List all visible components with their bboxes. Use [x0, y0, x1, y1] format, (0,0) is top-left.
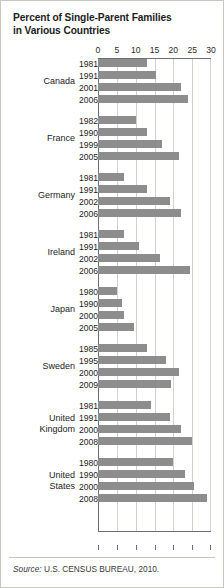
- bar-track: [98, 196, 211, 207]
- bar: [98, 254, 160, 262]
- year-label: 1995: [79, 356, 98, 366]
- year-label: 1990: [79, 128, 98, 138]
- bar-group: Japan1980199020002005: [9, 286, 211, 333]
- group-label: Ireland: [9, 247, 79, 258]
- year-label: 2006: [79, 95, 98, 105]
- bar-track: [98, 229, 211, 240]
- bar-track: [98, 286, 211, 297]
- bar-row: 2001: [79, 82, 211, 93]
- bar-row: 1999: [79, 139, 211, 150]
- bar-row: 1990: [79, 469, 211, 480]
- bar-group: Ireland1981199120022006: [9, 229, 211, 276]
- year-label: 2005: [79, 152, 98, 162]
- group-label: UnitedStates: [9, 470, 79, 491]
- bar: [98, 323, 134, 331]
- bar: [98, 152, 179, 160]
- group-rows: 1980199020002005: [79, 286, 211, 333]
- group-label: UnitedKingdom: [9, 413, 79, 434]
- bar: [98, 116, 136, 124]
- bar-group: France1982199019992005: [9, 115, 211, 162]
- bar-row: 2009: [79, 379, 211, 390]
- year-label: 1980: [79, 287, 98, 297]
- bar-track: [98, 241, 211, 252]
- year-label: 1991: [79, 413, 98, 423]
- bar-row: 1981: [79, 172, 211, 183]
- bar-row: 2005: [79, 322, 211, 333]
- bar: [98, 59, 147, 67]
- year-label: 1985: [79, 344, 98, 354]
- x-tickmark: [117, 545, 118, 550]
- bar: [98, 128, 147, 136]
- bar-row: 1995: [79, 355, 211, 366]
- bar: [98, 344, 147, 352]
- x-tickmark: [155, 545, 156, 550]
- x-tick-label: 15: [150, 45, 160, 55]
- x-tick-label: 0: [96, 45, 101, 55]
- bar: [98, 266, 190, 274]
- year-label: 1990: [79, 470, 98, 480]
- year-label: 1991: [79, 185, 98, 195]
- bar-row: 1991: [79, 70, 211, 81]
- bar: [98, 494, 207, 502]
- bar-track: [98, 127, 211, 138]
- bar-row: 1991: [79, 241, 211, 252]
- year-label: 1991: [79, 242, 98, 252]
- group-spacer: [9, 447, 211, 457]
- group-spacer: [9, 219, 211, 229]
- bar-group: UnitedKingdom1981199120002008: [9, 400, 211, 447]
- source-label: Source:: [13, 564, 42, 574]
- bar-track: [98, 208, 211, 219]
- page-title-line-2: in Various Countries: [13, 25, 213, 38]
- group-rows: 1980199020002008: [79, 457, 211, 504]
- bar-track: [98, 424, 211, 435]
- bar-row: 1980: [79, 286, 211, 297]
- bar: [98, 380, 171, 388]
- bar-track: [98, 253, 211, 264]
- bar-row: 1981: [79, 229, 211, 240]
- bar: [98, 242, 139, 250]
- bar-track: [98, 355, 211, 366]
- group-label: France: [9, 133, 79, 144]
- x-tickmark: [136, 545, 137, 550]
- year-label: 1981: [79, 173, 98, 183]
- bar: [98, 185, 147, 193]
- x-tickmark: [210, 545, 211, 550]
- page-title: Percent of Single-Parent Families in Var…: [13, 12, 213, 37]
- page-title-line-1: Percent of Single-Parent Families: [13, 12, 213, 25]
- bar-row: 2006: [79, 265, 211, 276]
- year-label: 2000: [79, 311, 98, 321]
- year-label: 2005: [79, 323, 98, 333]
- bar-track: [98, 58, 211, 69]
- bar-row: 2008: [79, 493, 211, 504]
- bar-row: 1990: [79, 298, 211, 309]
- group-rows: 1985199520002009: [79, 343, 211, 390]
- bar-row: 2005: [79, 151, 211, 162]
- bar-track: [98, 400, 211, 411]
- bar: [98, 209, 181, 217]
- bar-track: [98, 82, 211, 93]
- x-tick-label: 10: [131, 45, 141, 55]
- bar-row: 2006: [79, 208, 211, 219]
- bar-groups: Canada1981199120012006France198219901999…: [9, 58, 211, 532]
- bar-track: [98, 412, 211, 423]
- bar-track: [98, 367, 211, 378]
- source-divider: [9, 557, 215, 558]
- bar-group: UnitedStates1980199020002008: [9, 457, 211, 504]
- bar-row: 1991: [79, 412, 211, 423]
- x-axis-tickmarks: [98, 545, 211, 550]
- bar: [98, 83, 181, 91]
- source-note: Source: U.S. CENSUS BUREAU, 2010.: [13, 564, 159, 574]
- bar-row: 1982: [79, 115, 211, 126]
- year-label: 2002: [79, 197, 98, 207]
- bar-track: [98, 151, 211, 162]
- bar: [98, 140, 162, 148]
- year-label: 1990: [79, 299, 98, 309]
- bar-row: 2006: [79, 94, 211, 105]
- year-label: 2000: [79, 425, 98, 435]
- group-label: Japan: [9, 304, 79, 315]
- bar-track: [98, 493, 211, 504]
- chart-figure: Percent of Single-Parent Families in Var…: [0, 0, 224, 588]
- bar-track: [98, 172, 211, 183]
- year-label: 1999: [79, 140, 98, 150]
- group-spacer: [9, 276, 211, 286]
